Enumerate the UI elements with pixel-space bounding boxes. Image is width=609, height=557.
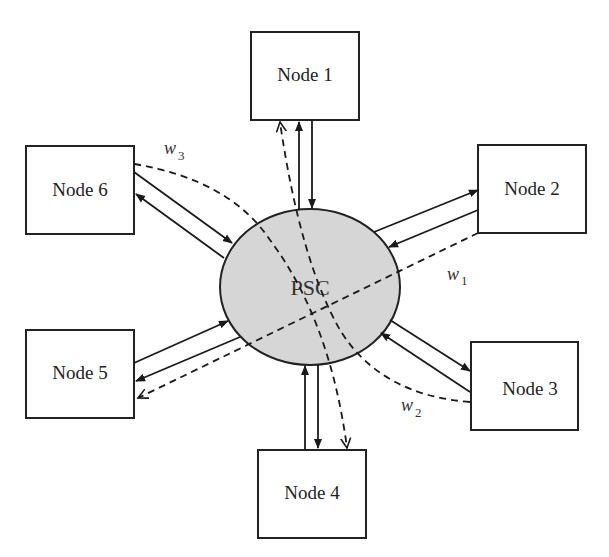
node-2-label: Node 2 [504, 178, 559, 199]
node-6-label: Node 6 [52, 179, 107, 200]
link-psc-to-node-2-arrow [374, 190, 478, 232]
w2-subscript: 2 [415, 405, 422, 420]
node-3: Node 3 [471, 342, 578, 430]
link-psc-to-node-6-arrow [136, 194, 224, 258]
node-6: Node 6 [26, 146, 134, 234]
link-node-2-to-psc-arrow [389, 210, 478, 247]
node-4-label: Node 4 [284, 482, 340, 503]
link-node-6-to-psc-arrow [134, 172, 232, 243]
w3-subscript: 3 [178, 148, 185, 163]
node-4: Node 4 [258, 450, 366, 538]
node-2: Node 2 [478, 145, 586, 233]
w3-letter: w [164, 138, 176, 158]
w1-subscript: 1 [461, 273, 468, 288]
link-psc-to-node-3-arrow [390, 320, 470, 371]
link-node-5-to-psc-arrow [134, 321, 228, 363]
label-w1: w 1 [447, 264, 468, 288]
node-5-label: Node 5 [52, 362, 107, 383]
w2-letter: w [401, 395, 413, 415]
link-psc-to-node-5-arrow [136, 337, 240, 381]
psc-hub: PSC [220, 209, 400, 365]
node-5: Node 5 [26, 330, 134, 418]
node-1-label: Node 1 [277, 64, 332, 85]
node-1: Node 1 [251, 32, 359, 120]
w1-letter: w [447, 264, 459, 284]
label-w2: w 2 [401, 395, 422, 420]
network-diagram: PSC Node 1 Node 2 Node 3 Node 4 Node 5 N… [0, 0, 609, 557]
label-w3: w 3 [164, 138, 185, 163]
node-3-label: Node 3 [502, 378, 557, 399]
